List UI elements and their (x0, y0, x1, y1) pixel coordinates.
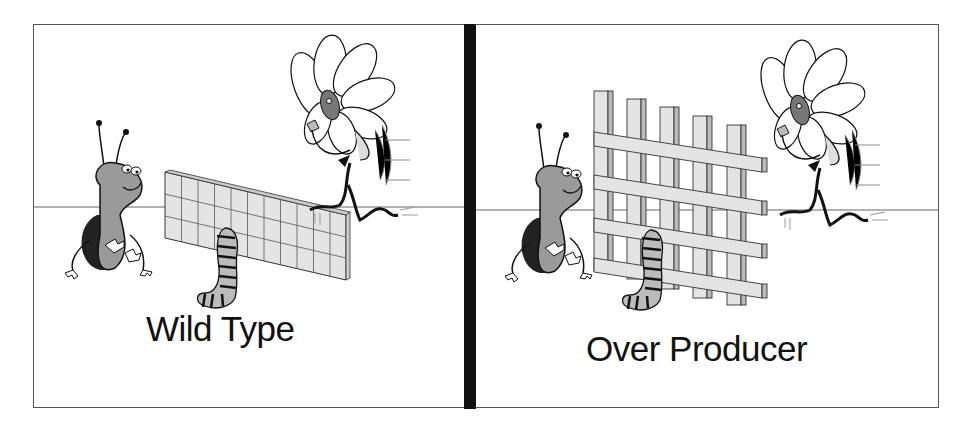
illustration (0, 0, 962, 435)
flower-creature-right (753, 39, 888, 230)
flower-creature-left (283, 34, 418, 225)
wild-type-wall (165, 170, 350, 280)
bug-right (505, 123, 592, 282)
bug-left (65, 120, 152, 279)
label-wild-type: Wild Type (146, 309, 295, 349)
over-producer-wall (594, 91, 767, 305)
label-over-producer: Over Producer (586, 329, 807, 369)
panel-divider (464, 24, 476, 409)
